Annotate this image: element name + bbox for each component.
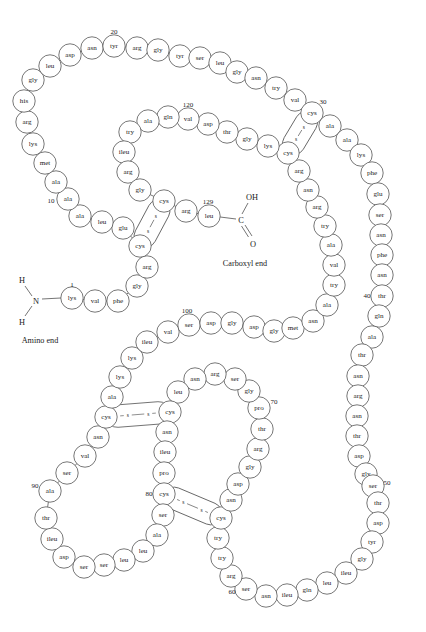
residue-68-arg[interactable]: arg: [247, 438, 269, 460]
residue-58-ileu[interactable]: ileu: [276, 584, 298, 606]
residue-41-gln[interactable]: gln: [368, 305, 390, 327]
residue-label: ala: [46, 487, 55, 495]
residue-56-leu[interactable]: leu: [316, 572, 338, 594]
residue-128-arg[interactable]: arg: [175, 200, 197, 222]
residue-3-phe[interactable]: phe: [107, 290, 129, 312]
residue-6-cys[interactable]: cys: [129, 235, 151, 257]
residue-label: thr: [378, 292, 387, 300]
residue-39-asn[interactable]: asn: [371, 264, 393, 286]
residue-90-ala[interactable]: ala: [39, 480, 61, 502]
residue-95-ala[interactable]: ala: [101, 386, 123, 408]
residue-91-ser[interactable]: ser: [56, 462, 78, 484]
residue-72-ser[interactable]: ser: [224, 368, 246, 390]
residue-label: val: [91, 297, 100, 305]
residue-94-cys[interactable]: cys: [95, 406, 117, 428]
residue-label: arg: [23, 118, 32, 126]
residue-93-asn[interactable]: asn: [87, 426, 109, 448]
residue-109-val[interactable]: val: [323, 254, 345, 276]
residue-59-asn[interactable]: asn: [255, 585, 277, 607]
residue-108-try[interactable]: try: [323, 274, 345, 296]
residue-label: asn: [352, 412, 362, 420]
residue-38-phe[interactable]: phe: [371, 244, 393, 266]
residue-117-gly[interactable]: gly: [236, 128, 258, 150]
residue-98-ileu[interactable]: ileu: [136, 331, 158, 353]
amino-terminus-group: NHHAmino end: [19, 276, 61, 345]
residue-123-try[interactable]: try: [119, 121, 141, 143]
residue-92-val[interactable]: val: [74, 445, 96, 467]
residue-102-gly[interactable]: gly: [221, 312, 243, 334]
residue-15-his[interactable]: his: [13, 90, 35, 112]
residue-label: ala: [153, 531, 162, 539]
residue-24-ser[interactable]: ser: [189, 47, 211, 69]
residue-18-asp[interactable]: asp: [59, 44, 81, 66]
residue-77-asn[interactable]: asn: [156, 421, 178, 443]
residue-76-cys[interactable]: cys: [159, 401, 181, 423]
residue-107-ala[interactable]: ala: [316, 294, 338, 316]
residue-69-thr[interactable]: thr: [251, 418, 273, 440]
residue-37-asn[interactable]: asn: [370, 224, 392, 246]
residue-73-arg[interactable]: arg: [204, 363, 226, 385]
residue-100-ser[interactable]: ser: [178, 314, 200, 336]
chemical-bond: [220, 217, 236, 219]
residue-27-asn[interactable]: asn: [245, 67, 267, 89]
residue-17-leu[interactable]: leu: [39, 55, 61, 77]
residue-5-arg[interactable]: arg: [136, 256, 158, 278]
residue-22-gly[interactable]: gly: [147, 39, 169, 61]
residue-23-tyr[interactable]: tyr: [169, 45, 191, 67]
residue-36-ser[interactable]: ser: [369, 204, 391, 226]
residue-86-ser[interactable]: ser: [73, 556, 95, 578]
residue-124-ileu[interactable]: ileu: [113, 141, 135, 163]
residue-88-ileu[interactable]: ileu: [41, 528, 63, 550]
residue-46-asn[interactable]: asn: [346, 405, 368, 427]
residue-20-tyr[interactable]: tyr: [103, 35, 125, 57]
residue-11-ala[interactable]: ala: [45, 171, 67, 193]
residue-121-gln[interactable]: gln: [157, 106, 179, 128]
residue-28-try[interactable]: try: [265, 77, 287, 99]
residue-81-ser[interactable]: ser: [152, 504, 174, 526]
hydroxyl-group-label: OH: [246, 193, 258, 202]
residue-84-leu[interactable]: leu: [113, 549, 135, 571]
residue-35-glu[interactable]: glu: [367, 183, 389, 205]
residue-47-thr[interactable]: thr: [346, 425, 368, 447]
residue-75-leu[interactable]: leu: [167, 381, 189, 403]
residue-96-lys[interactable]: lys: [109, 366, 131, 388]
residue-45-arg[interactable]: arg: [347, 385, 369, 407]
residue-43-thr[interactable]: thr: [351, 344, 373, 366]
residue-12-met[interactable]: met: [34, 152, 56, 174]
residue-40-thr[interactable]: thr: [371, 285, 393, 307]
residue-14-arg[interactable]: arg: [16, 111, 38, 133]
residue-13-lys[interactable]: lys: [22, 133, 44, 155]
residue-63-try[interactable]: try: [207, 527, 229, 549]
residue-79-pro[interactable]: pro: [153, 462, 175, 484]
residue-57-gln[interactable]: gln: [296, 579, 318, 601]
residue-127-cys[interactable]: cys: [153, 190, 175, 212]
residue-44-asn[interactable]: asn: [347, 365, 369, 387]
residue-1-lys[interactable]: lys: [61, 287, 83, 309]
residue-label: ser: [242, 585, 251, 593]
residue-7-glu[interactable]: glu: [112, 217, 134, 239]
residue-19-asn[interactable]: asn: [81, 37, 103, 59]
residue-label: ser: [159, 511, 168, 519]
residue-85-ser[interactable]: ser: [93, 554, 115, 576]
residue-105-met[interactable]: met: [282, 317, 304, 339]
residue-101-asp[interactable]: asp: [200, 312, 222, 334]
residue-119-asp[interactable]: asp: [197, 113, 219, 135]
residue-21-arg[interactable]: arg: [126, 37, 148, 59]
residue-129-leu[interactable]: leu: [198, 205, 220, 227]
residue-99-val[interactable]: val: [157, 321, 179, 343]
residue-126-gly[interactable]: gly: [129, 179, 151, 201]
residue-label: cys: [165, 408, 175, 416]
residue-120-val[interactable]: val: [177, 108, 199, 130]
residue-2-val[interactable]: val: [84, 290, 106, 312]
residue-89-thr[interactable]: thr: [35, 507, 57, 529]
residue-116-lys[interactable]: lys: [257, 135, 279, 157]
residue-62-try[interactable]: try: [211, 547, 233, 569]
residue-34-phe[interactable]: phe: [361, 162, 383, 184]
residue-115-cys[interactable]: cys: [277, 142, 299, 164]
residue-80-cys[interactable]: cys: [153, 483, 175, 505]
residue-label: gly: [244, 387, 254, 395]
residue-78-ileu[interactable]: ileu: [154, 441, 176, 463]
residue-8-leu[interactable]: leu: [91, 211, 113, 233]
residue-51-thr[interactable]: thr: [367, 492, 389, 514]
residue-103-asp[interactable]: asp: [243, 316, 265, 338]
